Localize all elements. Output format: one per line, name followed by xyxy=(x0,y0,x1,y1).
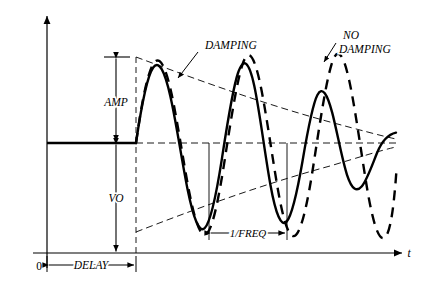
no-damping-label-line2: DAMPING xyxy=(338,43,391,55)
figure-canvas: AMP VO DELAY 1/FREQ DAMPING NO DAMPING 0… xyxy=(0,0,422,281)
no-damping-label-line1: NO xyxy=(342,29,360,41)
t-axis-label: t xyxy=(407,247,411,259)
damped-sine-curve xyxy=(136,63,396,229)
period-measurement xyxy=(209,143,287,240)
damping-label: DAMPING xyxy=(204,39,257,51)
damping-leader-line xyxy=(178,52,198,78)
delay-label: DELAY xyxy=(73,259,110,271)
vo-label: VO xyxy=(109,192,125,204)
undamped-sine-curve xyxy=(136,54,397,238)
upper-damping-envelope xyxy=(136,57,396,139)
no-damping-leader-line xyxy=(324,43,336,62)
origin-label: 0 xyxy=(36,260,42,272)
period-label: 1/FREQ xyxy=(230,227,267,239)
amp-label: AMP xyxy=(103,96,128,108)
